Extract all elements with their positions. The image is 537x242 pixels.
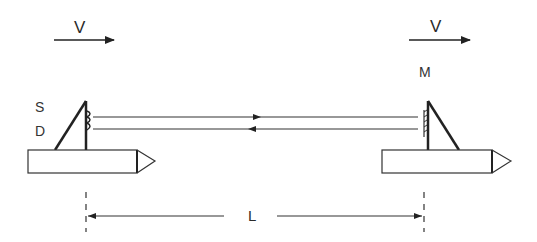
right-vehicle-body bbox=[382, 150, 492, 173]
left-vehicle-body bbox=[28, 150, 137, 173]
outgoing-beam-arrow-icon bbox=[253, 114, 261, 120]
dimension-left-arrow-icon bbox=[88, 213, 96, 219]
right-vehicle-nose-icon bbox=[492, 150, 511, 173]
laser-beams bbox=[93, 114, 418, 132]
return-beam-arrow-icon bbox=[248, 126, 256, 132]
mirror-icon bbox=[424, 110, 427, 137]
detector-label: D bbox=[35, 123, 45, 139]
distance-label: L bbox=[248, 207, 256, 224]
source-emitter-icon bbox=[87, 111, 90, 123]
velocity-left: V bbox=[54, 18, 114, 40]
distance-dimension: L bbox=[86, 192, 424, 232]
right-vehicle bbox=[382, 101, 511, 173]
left-vehicle bbox=[28, 101, 155, 173]
velocity-left-label: V bbox=[74, 18, 86, 37]
source-label: S bbox=[35, 99, 44, 115]
left-vehicle-nose-icon bbox=[137, 150, 155, 173]
detector-icon bbox=[87, 123, 90, 130]
velocity-right-label: V bbox=[430, 17, 442, 36]
left-mount-brace bbox=[55, 101, 86, 150]
dimension-right-arrow-icon bbox=[414, 213, 422, 219]
right-mount-brace bbox=[428, 101, 459, 150]
velocity-right: V bbox=[409, 17, 470, 40]
mirror-label: M bbox=[419, 64, 431, 80]
laser-ranging-diagram: V V S D M bbox=[0, 0, 537, 242]
